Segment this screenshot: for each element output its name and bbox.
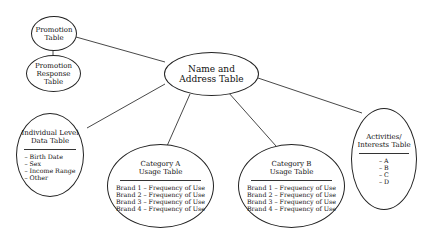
edge-name-address-to-category-b xyxy=(228,92,276,146)
individual-level-table-node: Individual Level Data Table – Birth Date… xyxy=(16,113,84,197)
individual-item: – Other xyxy=(24,174,75,181)
category-b-item: Brand 2 – Frequency of Use xyxy=(247,191,336,198)
name-address-table-node: Name and Address Table xyxy=(164,52,259,96)
promotion-table-node: Promotion Table xyxy=(31,16,77,51)
individual-item: – Income Range xyxy=(24,167,75,174)
individual-item: – Sex xyxy=(24,160,75,167)
name-address-title-2: Address Table xyxy=(179,74,243,84)
activities-item: – A xyxy=(379,157,389,164)
promotion-table-title-1: Promotion xyxy=(36,26,73,34)
promotion-response-title-2: Response xyxy=(37,70,71,78)
divider xyxy=(359,153,409,154)
divider xyxy=(251,180,333,181)
promotion-response-table-node: Promotion Response Table xyxy=(26,55,81,92)
activities-items: – A – B – C – D xyxy=(379,157,389,185)
category-a-item: Brand 2 – Frequency of Use xyxy=(116,191,205,198)
promotion-response-title-1: Promotion xyxy=(35,62,72,70)
category-b-item: Brand 1 – Frequency of Use xyxy=(247,184,336,191)
name-address-title-1: Name and xyxy=(188,64,235,74)
category-a-item: Brand 4 – Frequency of Use xyxy=(116,205,205,212)
category-a-item: Brand 3 – Frequency of Use xyxy=(116,198,205,205)
category-a-item: Brand 1 – Frequency of Use xyxy=(116,184,205,191)
activities-title-2: Interests Table xyxy=(357,141,410,149)
activities-title-1: Activities/ xyxy=(366,133,401,141)
edge-name-address-to-individual xyxy=(87,84,165,128)
individual-item: – Birth Date xyxy=(24,153,75,160)
promotion-response-title-3: Table xyxy=(44,78,63,86)
activities-interests-table-node: Activities/ Interests Table – A – B – C … xyxy=(351,108,417,210)
edge-name-address-to-category-a xyxy=(167,94,190,146)
individual-title-1: Individual Level xyxy=(22,129,79,137)
category-a-items: Brand 1 – Frequency of Use Brand 2 – Fre… xyxy=(116,184,205,212)
edge-promotion-to-name-address xyxy=(76,37,165,62)
divider xyxy=(120,180,202,181)
category-b-item: Brand 3 – Frequency of Use xyxy=(247,198,336,205)
promotion-table-title-2: Table xyxy=(44,34,63,42)
category-a-title-2: Usage Table xyxy=(139,168,183,176)
category-a-table-node: Category A Usage Table Brand 1 – Frequen… xyxy=(107,144,214,228)
activities-item: – D xyxy=(379,178,389,185)
edge-name-address-to-activities xyxy=(258,78,362,113)
individual-items: – Birth Date – Sex – Income Range – Othe… xyxy=(24,153,75,181)
category-b-title-1: Category B xyxy=(272,160,312,168)
activities-item: – B xyxy=(379,164,389,171)
category-a-title-1: Category A xyxy=(141,160,181,168)
category-b-title-2: Usage Table xyxy=(270,168,314,176)
activities-item: – C xyxy=(379,171,389,178)
category-b-item: Brand 4 – Frequency of Use xyxy=(247,205,336,212)
category-b-items: Brand 1 – Frequency of Use Brand 2 – Fre… xyxy=(247,184,336,212)
individual-title-2: Data Table xyxy=(31,137,69,145)
category-b-table-node: Category B Usage Table Brand 1 – Frequen… xyxy=(238,144,345,228)
divider xyxy=(24,149,75,150)
